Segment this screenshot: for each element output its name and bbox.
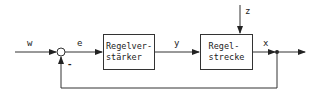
minus-sign: - [67,59,72,69]
plant-label: Regel- strecke [209,41,245,63]
controller-label: Regelver- stärker [106,41,152,63]
diagram-lines [0,0,322,95]
signal-x-label: x [263,38,268,48]
signal-z-label: z [245,6,250,16]
controller-block: Regelver- stärker [103,34,155,70]
signal-y-label: y [174,38,179,48]
plant-block: Regel- strecke [200,34,253,70]
signal-e-label: e [77,38,82,48]
signal-w-label: w [27,38,32,48]
